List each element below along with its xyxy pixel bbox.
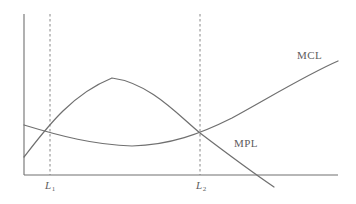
curve-label-mpl: MPL bbox=[234, 138, 258, 149]
axis-label-l2: L2 bbox=[196, 180, 206, 191]
chart-canvas bbox=[0, 0, 356, 204]
axis-label-l1: L1 bbox=[45, 180, 55, 191]
curve-mpl bbox=[24, 78, 274, 187]
axis-label-l2-subscript: 2 bbox=[203, 185, 207, 193]
axis-label-l1-subscript: 1 bbox=[52, 185, 56, 193]
axis-label-l2-base: L bbox=[196, 179, 202, 191]
economics-chart-figure: MCL MPL L1 L2 bbox=[0, 0, 356, 204]
axis-label-l1-base: L bbox=[45, 179, 51, 191]
curve-label-mcl: MCL bbox=[297, 50, 322, 61]
